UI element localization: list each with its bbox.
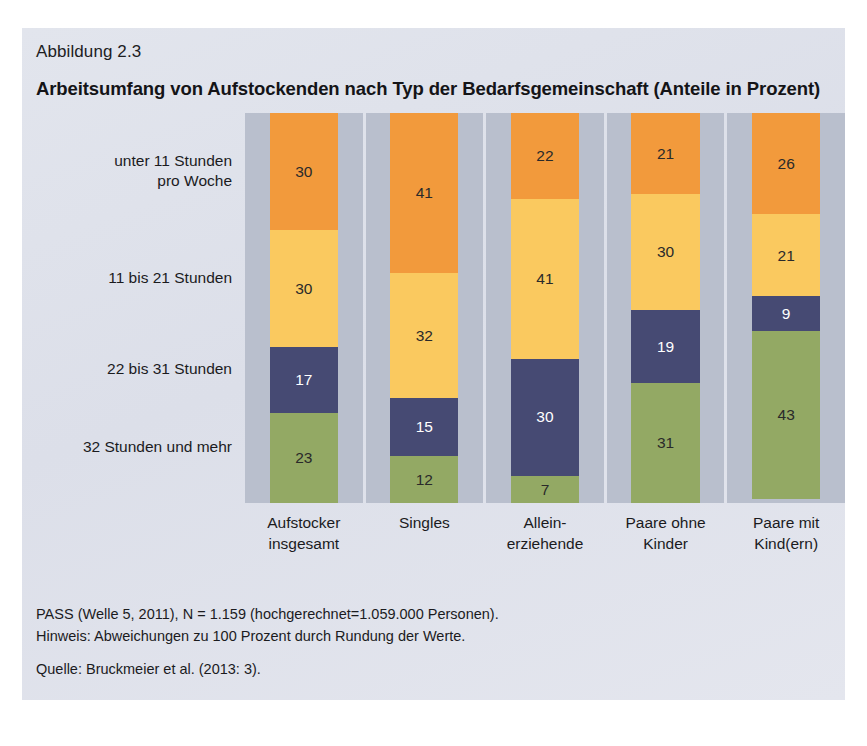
bar-segment-value: 12 <box>416 472 433 488</box>
bar-segment[interactable]: 30 <box>511 359 579 476</box>
bar-panel: 2621943 <box>727 113 845 503</box>
bar-segment-value: 43 <box>778 407 795 423</box>
stacked-bar[interactable]: 21301931 <box>631 113 699 503</box>
bar-segment[interactable]: 9 <box>752 296 820 331</box>
bar-segment[interactable]: 12 <box>390 456 458 503</box>
bar-segment[interactable]: 32 <box>390 273 458 398</box>
bar-segment[interactable]: 15 <box>390 398 458 457</box>
series-label-2: 22 bis 31 Stunden <box>107 359 232 380</box>
series-axis-labels: unter 11 Stunden pro Woche11 bis 21 Stun… <box>22 113 244 503</box>
bar-panel: 2241307 <box>486 113 604 503</box>
bar-segment[interactable]: 19 <box>631 310 699 383</box>
bar-segment-value: 21 <box>657 146 674 162</box>
footnotes: PASS (Welle 5, 2011), N = 1.159 (hochger… <box>36 603 816 680</box>
bar-segment[interactable]: 21 <box>631 113 699 194</box>
category-label-1: Singles <box>366 509 484 569</box>
bar-segment-value: 30 <box>657 244 674 260</box>
bar-segment[interactable]: 30 <box>270 230 338 347</box>
bar-segment-value: 41 <box>416 185 433 201</box>
bar-segment[interactable]: 21 <box>752 214 820 296</box>
bar-segment[interactable]: 26 <box>752 113 820 214</box>
bar-segment[interactable]: 7 <box>511 476 579 503</box>
bar-segment-value: 26 <box>778 156 795 172</box>
bar-segment-value: 9 <box>782 306 791 322</box>
stacked-bar[interactable]: 2241307 <box>511 113 579 503</box>
bar-segment-value: 41 <box>536 271 553 287</box>
footnote-quelle-line: Quelle: Bruckmeier et al. (2013: 3). <box>36 658 816 680</box>
figure-title: Arbeitsumfang von Aufstockenden nach Typ… <box>36 78 820 100</box>
plot-area: 30301723413215122241307213019312621943 <box>245 113 845 503</box>
category-label-4: Paare mit Kind(ern) <box>727 509 845 569</box>
bar-segment[interactable]: 23 <box>270 413 338 503</box>
bar-segment-value: 22 <box>536 148 553 164</box>
bar-panel: 30301723 <box>245 113 363 503</box>
bar-segment[interactable]: 43 <box>752 331 820 499</box>
bar-segment[interactable]: 17 <box>270 347 338 413</box>
chart-region: unter 11 Stunden pro Woche11 bis 21 Stun… <box>22 113 845 588</box>
bar-segment[interactable]: 30 <box>270 113 338 230</box>
bar-segment-value: 31 <box>657 435 674 451</box>
bar-segment[interactable]: 30 <box>631 194 699 310</box>
series-label-0: unter 11 Stunden pro Woche <box>114 151 232 193</box>
bar-segment-value: 30 <box>295 164 312 180</box>
bar-panel: 21301931 <box>607 113 725 503</box>
bar-segment[interactable]: 41 <box>511 199 579 359</box>
stacked-bar[interactable]: 30301723 <box>270 113 338 503</box>
bar-segment-value: 30 <box>536 409 553 425</box>
category-label-2: Allein- erziehende <box>486 509 604 569</box>
figure-container: Abbildung 2.3 Arbeitsumfang von Aufstock… <box>22 28 845 700</box>
bar-segment[interactable]: 41 <box>390 113 458 273</box>
bar-segment-value: 23 <box>295 450 312 466</box>
footnote-source-line: PASS (Welle 5, 2011), N = 1.159 (hochger… <box>36 603 816 625</box>
stacked-bar[interactable]: 41321512 <box>390 113 458 503</box>
figure-number: Abbildung 2.3 <box>36 42 141 62</box>
bar-segment-value: 30 <box>295 281 312 297</box>
category-label-3: Paare ohne Kinder <box>607 509 725 569</box>
bar-segment-value: 7 <box>541 482 550 498</box>
category-label-0: Aufstocker insgesamt <box>245 509 363 569</box>
bar-segment[interactable]: 22 <box>511 113 579 199</box>
bar-segment-value: 19 <box>657 339 674 355</box>
series-label-3: 32 Stunden und mehr <box>83 437 232 458</box>
stacked-bar[interactable]: 2621943 <box>752 113 820 503</box>
bar-segment[interactable]: 31 <box>631 383 699 503</box>
bar-segment-value: 17 <box>295 372 312 388</box>
bar-panel: 41321512 <box>366 113 484 503</box>
bar-segment-value: 21 <box>778 248 795 264</box>
series-label-1: 11 bis 21 Stunden <box>108 268 232 289</box>
bar-segment-value: 15 <box>416 419 433 435</box>
footnote-hint-line: Hinweis: Abweichungen zu 100 Prozent dur… <box>36 625 816 647</box>
category-axis-labels: Aufstocker insgesamtSinglesAllein- erzie… <box>245 509 845 569</box>
bar-segment-value: 32 <box>416 328 433 344</box>
